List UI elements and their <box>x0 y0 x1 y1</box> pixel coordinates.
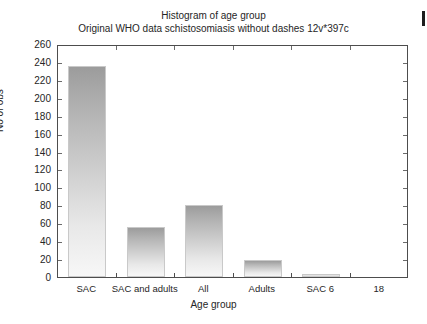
x-tick-mark-top <box>291 46 292 50</box>
x-tick-label: Adults <box>249 283 275 294</box>
chart-title-block: Histogram of age group Original WHO data… <box>0 9 427 35</box>
y-tick-label: 120 <box>0 165 51 175</box>
y-tick-mark <box>58 135 62 136</box>
x-tick-mark-top <box>116 46 117 50</box>
bar-all <box>185 205 223 277</box>
x-tick-label: SAC 6 <box>307 283 334 294</box>
y-tick-mark-right <box>403 117 407 118</box>
y-tick-mark-right <box>403 206 407 207</box>
y-tick-mark <box>58 170 62 171</box>
y-tick-mark <box>58 224 62 225</box>
y-tick-label: 260 <box>0 40 51 50</box>
y-tick-mark-right <box>403 260 407 261</box>
x-tick-mark <box>116 273 117 277</box>
y-tick-mark <box>58 153 62 154</box>
x-tick-label: SAC and adults <box>112 283 178 294</box>
bar-sac-and-adults <box>127 227 165 277</box>
chart-canvas: Histogram of age group Original WHO data… <box>0 0 427 324</box>
x-tick-mark-top <box>174 46 175 50</box>
chart-title: Histogram of age group <box>0 9 427 22</box>
y-tick-label: 200 <box>0 94 51 104</box>
y-tick-mark-right <box>403 242 407 243</box>
y-tick-label: 100 <box>0 183 51 193</box>
x-tick-mark-top <box>350 46 351 50</box>
chart-subtitle: Original WHO data schistosomiasis withou… <box>0 22 427 35</box>
y-tick-label: 40 <box>0 237 51 247</box>
x-tick-label: All <box>198 283 209 294</box>
x-tick-label: 18 <box>373 283 384 294</box>
y-tick-label: 20 <box>0 255 51 265</box>
y-tick-label: 80 <box>0 201 51 211</box>
y-tick-mark-right <box>403 99 407 100</box>
y-tick-mark <box>58 81 62 82</box>
y-tick-mark-right <box>403 224 407 225</box>
bar-adults <box>244 260 282 277</box>
y-tick-mark <box>58 242 62 243</box>
x-tick-mark <box>233 273 234 277</box>
y-tick-label: 140 <box>0 148 51 158</box>
edge-artifact-mark <box>422 11 425 26</box>
bar-sac-6 <box>302 274 340 277</box>
y-tick-label: 0 <box>0 273 51 283</box>
y-tick-mark <box>58 99 62 100</box>
y-tick-mark-right <box>403 153 407 154</box>
plot-area <box>57 45 408 278</box>
bar-series <box>58 46 407 277</box>
y-tick-mark <box>58 188 62 189</box>
x-tick-mark <box>291 273 292 277</box>
x-tick-mark-top <box>233 46 234 50</box>
y-tick-mark-right <box>403 170 407 171</box>
y-tick-label: 240 <box>0 58 51 68</box>
y-tick-mark-right <box>403 63 407 64</box>
x-tick-label: SAC <box>76 283 96 294</box>
y-tick-mark-right <box>403 81 407 82</box>
y-tick-label: 180 <box>0 112 51 122</box>
x-tick-mark <box>174 273 175 277</box>
y-tick-label: 60 <box>0 219 51 229</box>
y-tick-mark <box>58 63 62 64</box>
y-tick-mark-right <box>403 135 407 136</box>
y-tick-mark <box>58 117 62 118</box>
y-tick-mark-right <box>403 188 407 189</box>
y-tick-label: 160 <box>0 130 51 140</box>
y-tick-label: 220 <box>0 76 51 86</box>
y-tick-mark <box>58 260 62 261</box>
x-tick-mark <box>350 273 351 277</box>
bar-sac <box>68 66 106 277</box>
x-axis-title: Age group <box>0 299 427 310</box>
y-tick-mark <box>58 206 62 207</box>
